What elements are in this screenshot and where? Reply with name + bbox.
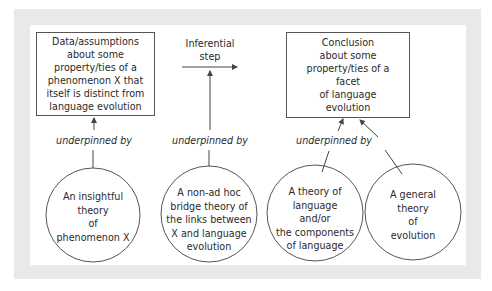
text-line: theory <box>57 204 130 218</box>
text-line: Conclusion <box>307 36 390 49</box>
text-line: evolution <box>307 101 390 114</box>
text-line: the components <box>276 226 354 240</box>
line-circle4-to-label <box>385 150 402 174</box>
data-assumptions-box: Data/assumptions about some property/tie… <box>36 32 155 116</box>
text-line: step <box>186 50 235 63</box>
underpinned-by-label-left: underpinned by <box>56 135 132 146</box>
text-line: evolution <box>166 240 251 254</box>
underpinned-by-label-middle: underpinned by <box>172 135 248 146</box>
text-line: evolution <box>390 229 436 243</box>
circle-language-theory-text: A theory of language and/or the componen… <box>276 185 354 253</box>
text-line: of language <box>307 88 390 101</box>
text-line: of language <box>276 239 354 253</box>
text-line: itself is distinct from <box>47 87 145 100</box>
text-line: phenomenon X that <box>47 74 145 87</box>
text-line: property/ties of a <box>307 62 390 75</box>
text-line: X and language <box>166 227 251 241</box>
text-line: and/or <box>276 212 354 226</box>
text-line: Inferential <box>186 37 235 50</box>
line-circle3-to-label <box>322 151 329 172</box>
text-line: language evolution <box>47 100 145 113</box>
text-line: phenomenon X <box>57 231 130 245</box>
conclusion-text: Conclusion about some property/ties of a… <box>307 36 390 114</box>
text-line: A general <box>390 188 436 202</box>
text-line: theory <box>390 202 436 216</box>
conclusion-box: Conclusion about some property/ties of a… <box>286 32 410 118</box>
text-line: A non-ad hoc <box>166 186 251 200</box>
text-line: facet <box>307 75 390 88</box>
arrow-left-to-conclusion <box>338 119 343 131</box>
text-line: bridge theory of <box>166 200 251 214</box>
text-line: property/ties of a <box>47 61 145 74</box>
text-line: A theory of <box>276 185 354 199</box>
text-line: of <box>57 217 130 231</box>
text-line: the links between <box>166 213 251 227</box>
circle-bridge-theory-text: A non-ad hoc bridge theory of the links … <box>166 186 251 254</box>
underpinned-by-label-right: underpinned by <box>296 135 372 146</box>
data-assumptions-text: Data/assumptions about some property/tie… <box>47 35 145 113</box>
inferential-step-label: Inferential step <box>186 37 235 63</box>
text-line: An insightful <box>57 190 130 204</box>
text-line: about some <box>307 49 390 62</box>
text-line: language <box>276 199 354 213</box>
circle-phenomenon-x-text: An insightful theory of phenomenon X <box>57 190 130 244</box>
text-line: of <box>390 215 436 229</box>
text-line: about some <box>47 48 145 61</box>
circle-evolution-theory-text: A general theory of evolution <box>390 188 436 242</box>
text-line: Data/assumptions <box>47 35 145 48</box>
